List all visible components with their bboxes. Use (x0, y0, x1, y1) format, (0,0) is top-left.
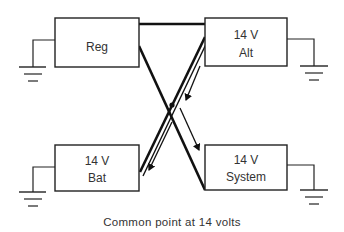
system-box: 14 V System (205, 145, 287, 190)
alt-voltage-label: 14 V (234, 28, 259, 42)
alt-box: 14 V Alt (205, 18, 287, 66)
common-point-dot (169, 102, 174, 107)
system-voltage-label: 14 V (234, 153, 259, 167)
reg-box: Reg (55, 18, 139, 67)
caption: Common point at 14 volts (103, 216, 241, 228)
bat-voltage-label: 14 V (85, 154, 110, 168)
ground-icon (19, 40, 55, 81)
ground-icon (287, 39, 328, 80)
charging-system-diagram: Reg 14 V Alt 14 V Bat 14 V System (0, 0, 344, 232)
bat-label: Bat (88, 171, 107, 185)
ground-icon (19, 167, 55, 206)
bat-box: 14 V Bat (55, 145, 139, 191)
system-label: System (226, 170, 266, 184)
reg-label: Reg (86, 40, 108, 54)
alt-label: Alt (239, 46, 254, 60)
wire-alt-bat-b (143, 40, 208, 176)
ground-icon (287, 165, 328, 204)
